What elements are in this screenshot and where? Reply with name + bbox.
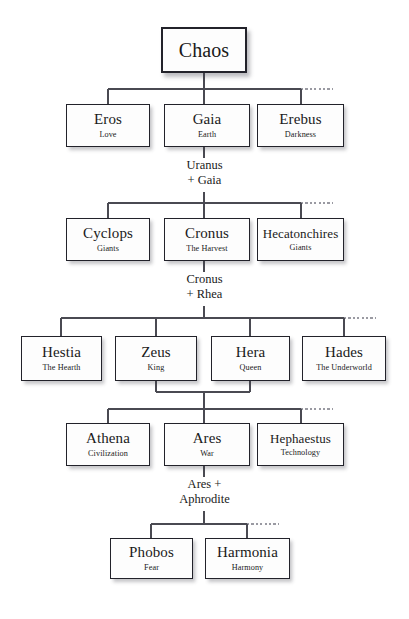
node-name: Chaos (179, 40, 230, 60)
node-subtitle: Harmony (232, 563, 264, 572)
node-athena[interactable]: Athena Civilization (66, 423, 150, 466)
node-subtitle: Earth (198, 130, 216, 139)
node-hecatonchires[interactable]: Hecatonchires Giants (257, 218, 344, 261)
node-name: Gaia (193, 112, 222, 127)
node-hestia[interactable]: Hestia The Hearth (21, 336, 102, 381)
node-subtitle: Love (99, 130, 116, 139)
node-hera[interactable]: Hera Queen (211, 336, 290, 381)
node-name: Zeus (141, 345, 171, 360)
node-name: Cyclops (83, 226, 133, 241)
node-zeus[interactable]: Zeus King (115, 336, 197, 381)
node-cyclops[interactable]: Cyclops Giants (66, 218, 150, 261)
union-line2: + Gaia (3, 173, 406, 188)
node-cronus[interactable]: Cronus The Harvest (164, 218, 250, 261)
node-ares[interactable]: Ares War (164, 423, 250, 466)
node-subtitle: The Harvest (186, 244, 227, 253)
node-hades[interactable]: Hades The Underworld (302, 336, 386, 381)
node-name: Ares (193, 431, 222, 446)
node-phobos[interactable]: Phobos Fear (110, 538, 193, 579)
union-line1: Uranus (3, 158, 406, 173)
node-gaia[interactable]: Gaia Earth (164, 104, 250, 147)
union-line2: Aphrodite (3, 492, 406, 507)
node-name: Hera (236, 345, 266, 360)
node-name: Cronus (185, 226, 229, 241)
union-cronus-rhea: Cronus + Rhea (0, 272, 409, 303)
node-name: Hecatonchires (263, 227, 339, 240)
node-erebus[interactable]: Erebus Darkness (257, 104, 344, 147)
node-subtitle: Giants (97, 244, 119, 253)
node-name: Phobos (129, 545, 174, 560)
node-name: Hestia (42, 345, 81, 360)
node-subtitle: Civilization (88, 449, 128, 458)
node-subtitle: King (148, 363, 165, 372)
union-ares-aphrodite: Ares + Aphrodite (0, 477, 409, 508)
union-line2: + Rhea (3, 287, 406, 302)
node-name: Eros (94, 112, 122, 127)
union-uranus-gaia: Uranus + Gaia (0, 158, 409, 189)
node-subtitle: Technology (281, 448, 321, 457)
node-hephaestus[interactable]: Hephaestus Technology (257, 423, 344, 466)
node-name: Harmonia (217, 545, 278, 560)
node-name: Hephaestus (270, 432, 331, 445)
node-subtitle: Queen (240, 363, 262, 372)
node-subtitle: Fear (144, 563, 159, 572)
node-harmonia[interactable]: Harmonia Harmony (205, 538, 290, 579)
node-subtitle: The Underworld (316, 363, 372, 372)
node-subtitle: War (200, 449, 214, 458)
union-line1: Ares + (3, 477, 406, 492)
node-chaos[interactable]: Chaos (161, 27, 247, 73)
node-subtitle: Giants (290, 243, 312, 252)
connector-lines (0, 0, 409, 619)
node-subtitle: Darkness (285, 130, 316, 139)
family-tree-canvas: Chaos Eros Love Gaia Earth Erebus Darkne… (0, 0, 409, 619)
union-line1: Cronus (3, 272, 406, 287)
node-name: Erebus (279, 112, 321, 127)
node-name: Athena (86, 431, 130, 446)
node-eros[interactable]: Eros Love (66, 104, 150, 147)
node-name: Hades (325, 345, 363, 360)
node-subtitle: The Hearth (42, 363, 80, 372)
